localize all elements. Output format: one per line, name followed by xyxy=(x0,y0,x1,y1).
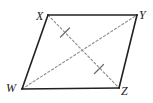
edge-wx xyxy=(22,15,48,89)
vertex-label-w: W xyxy=(6,82,16,94)
vertex-label-z: Z xyxy=(121,85,128,97)
diagonal-xz xyxy=(48,15,119,88)
diagonals-group xyxy=(22,15,137,89)
congruence-tick-mark-lower xyxy=(95,65,104,74)
edge-yz xyxy=(119,15,137,88)
vertex-label-y: Y xyxy=(139,9,146,21)
edge-zw xyxy=(22,88,119,89)
geometry-figure-parallelogram-wxyz: W X Y Z xyxy=(0,0,153,103)
parallelogram-drawing-canvas xyxy=(0,0,153,103)
diagonal-wy xyxy=(22,15,137,89)
vertex-label-x: X xyxy=(36,10,43,22)
